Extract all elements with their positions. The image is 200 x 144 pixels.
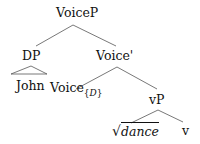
node-v: v: [182, 125, 189, 138]
voice-head-label: Voice: [50, 80, 84, 95]
node-voicep: VoiceP: [56, 7, 98, 20]
node-root-dance: √dance: [112, 124, 159, 139]
node-voice-bar: Voice': [96, 50, 133, 63]
voice-subscript: {D}: [84, 88, 103, 98]
root-dance-label: dance: [121, 122, 159, 139]
node-voice-head: Voice{D}: [50, 82, 103, 95]
node-dp: DP: [22, 50, 40, 63]
root-symbol: √: [112, 123, 121, 139]
tree-branches: [0, 0, 200, 144]
node-john: John: [16, 80, 45, 93]
syntax-tree: VoiceP DP Voice' John Voice{D} vP √dance…: [0, 0, 200, 144]
node-vp: vP: [149, 94, 164, 107]
